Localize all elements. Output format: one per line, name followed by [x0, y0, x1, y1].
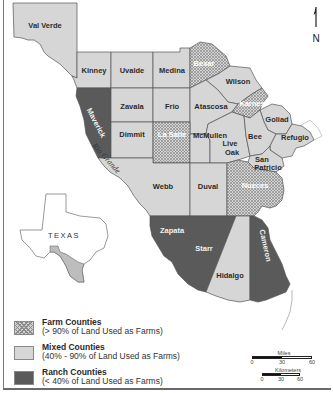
label-san-patricio-2: Patricio [254, 163, 282, 172]
padre-island-line [282, 290, 292, 330]
county-val-verde[interactable] [13, 3, 77, 78]
legend-mixed-subtitle: (40% - 90% of Land Used as Farms) [42, 352, 180, 361]
scale-bar: Miles 0 30 60 Kilometers 0 30 60 [240, 350, 330, 384]
label-webb: Webb [153, 182, 174, 191]
label-kinney: Kinney [81, 66, 107, 75]
farm-swatch [14, 321, 34, 335]
label-frio: Frio [165, 102, 180, 111]
label-karnes: Karnes [239, 99, 264, 108]
label-bee: Bee [248, 132, 262, 141]
label-goliad: Goliad [265, 115, 289, 124]
scale-km-tick-0: 0 [260, 376, 263, 382]
label-dimmit: Dimmit [119, 130, 145, 139]
county-la-salle[interactable] [153, 122, 190, 163]
label-bexar: Bexar [194, 59, 215, 68]
legend-item-farm: Farm Counties (> 90% of Land Used as Far… [14, 318, 214, 338]
ranch-swatch [14, 371, 34, 385]
county-dimmit[interactable] [111, 122, 153, 158]
scale-km-tick-60: 60 [297, 376, 303, 382]
legend: Farm Counties (> 90% of Land Used as Far… [14, 318, 214, 393]
label-atascosa: Atascosa [194, 102, 228, 111]
label-texas: TEXAS [48, 231, 80, 240]
legend-item-mixed: Mixed Counties (40% - 90% of Land Used a… [14, 343, 214, 363]
mixed-swatch [14, 346, 34, 360]
label-zavala: Zavala [120, 102, 144, 111]
legend-ranch-subtitle: (< 40% of Land Used as Farms) [42, 377, 163, 386]
label-zapata: Zapata [160, 226, 185, 235]
label-medina: Medina [159, 66, 186, 75]
label-live-oak-2: Oak [225, 148, 240, 157]
label-duval: Duval [198, 182, 218, 191]
north-arrow-icon [311, 6, 321, 28]
scale-miles-tick-60: 60 [309, 359, 315, 365]
label-nueces: Nueces [242, 181, 269, 190]
label-val-verde: Val Verde [28, 21, 61, 30]
legend-farm-subtitle: (> 90% of Land Used as Farms) [42, 327, 163, 336]
scale-miles-tick-0: 0 [250, 359, 253, 365]
scale-miles-tick-30: 30 [279, 359, 285, 365]
label-wilson: Wilson [226, 77, 251, 86]
label-refugio: Refugio [281, 133, 309, 142]
legend-item-ranch: Ranch Counties (< 40% of Land Used as Fa… [14, 368, 214, 388]
north-arrow: N [308, 6, 324, 44]
label-live-oak: Live [222, 139, 237, 148]
north-label: N [308, 33, 324, 44]
label-uvalde: Uvalde [120, 66, 145, 75]
scale-km-tick-30: 30 [278, 376, 284, 382]
label-la-salle: La Salle [158, 130, 186, 139]
label-hidalgo: Hidalgo [216, 271, 244, 280]
label-starr: Starr [195, 244, 213, 253]
